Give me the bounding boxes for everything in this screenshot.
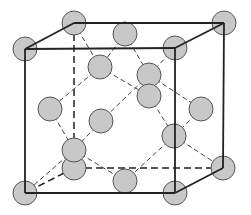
atom-inner-1 [88,55,112,79]
cube-edge [25,23,74,49]
atom-inner-4 [62,138,86,162]
cube-edge [223,23,224,168]
atom-face-bottom [113,169,137,193]
atom-face-top [113,22,137,46]
atom-face-back [89,109,113,133]
cube-edge [175,23,224,48]
cube-edge [25,48,175,49]
crystal-lattice-diagram [0,0,251,215]
atom-inner-3 [162,124,186,148]
atom-inner-2 [137,63,161,87]
cube-edge [175,168,223,193]
atom-face-right [189,97,213,121]
atoms [13,11,236,205]
atom-face-front [137,84,161,108]
atom-face-left [38,97,62,121]
